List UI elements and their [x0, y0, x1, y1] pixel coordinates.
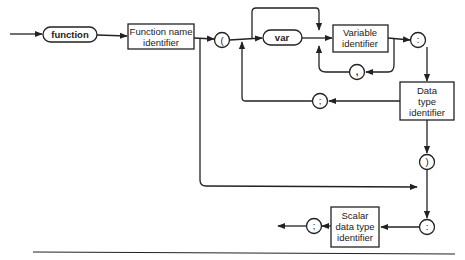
- variable-label-2: identifier: [342, 38, 378, 49]
- syntax-diagram: function Function name identifier ( var …: [0, 0, 465, 260]
- colon-label-1: :: [417, 34, 420, 45]
- colon-label-2: :: [426, 221, 429, 232]
- scalar-label-3: identifier: [337, 232, 373, 243]
- function-name-label-1: Function name: [130, 26, 193, 37]
- variable-label-1: Variable: [343, 27, 377, 38]
- scalar-label-1: Scalar: [342, 210, 369, 221]
- function-keyword-label: function: [51, 29, 89, 40]
- data-type-label-2: type: [418, 96, 436, 107]
- var-keyword-label: var: [275, 32, 290, 43]
- semicolon-label-1: ;: [319, 95, 322, 106]
- bottom-rule: [33, 252, 455, 254]
- scalar-label-2: data type: [335, 221, 374, 232]
- function-name-label-2: identifier: [143, 37, 179, 48]
- data-type-label-3: identifier: [409, 107, 445, 118]
- semicolon-label-end: ;: [313, 220, 316, 231]
- close-paren-label: ): [425, 156, 428, 167]
- comma-label: ,: [356, 66, 359, 77]
- open-paren-label: (: [220, 35, 224, 46]
- no-params-path: [200, 38, 417, 187]
- data-type-label-1: Data: [417, 85, 438, 96]
